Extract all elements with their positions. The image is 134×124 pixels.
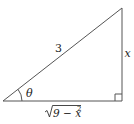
right-triangle-diagram: 3 x θ 9 − x 2 xyxy=(0,0,134,124)
right-angle-marker xyxy=(115,94,122,101)
adjacent-label: 9 − x 2 xyxy=(45,105,81,119)
angle-label: θ xyxy=(26,87,33,100)
angle-arc xyxy=(18,89,22,101)
opposite-label: x xyxy=(125,47,132,60)
adjacent-exponent: 2 xyxy=(77,105,81,113)
hypotenuse-side xyxy=(3,8,122,101)
hypotenuse-label: 3 xyxy=(55,42,62,55)
